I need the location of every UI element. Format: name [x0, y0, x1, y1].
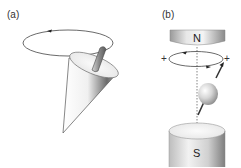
orbit-sign-right: +: [224, 53, 230, 64]
panel-b-label: (b): [162, 9, 174, 20]
panel-b: (b) N + + S: [161, 9, 230, 167]
spinning-particle: [198, 83, 218, 105]
magnet-north-label: N: [193, 32, 201, 44]
spin-arrow: [216, 66, 222, 78]
magnet-south-label: S: [193, 147, 200, 159]
panel-a: (a): [7, 9, 121, 133]
precession-orbit-b: [169, 52, 223, 67]
panel-a-label: (a): [7, 9, 19, 20]
orbit-sign-left: +: [161, 53, 167, 64]
diagram-canvas: (a) (b) N + +: [0, 0, 241, 168]
magnet-south-top: [169, 123, 225, 139]
particle-stick: [198, 102, 204, 115]
orbit-arrow-icon: [47, 30, 52, 33]
